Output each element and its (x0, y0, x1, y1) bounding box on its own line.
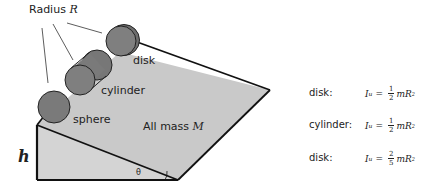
formula-rhs: mR (396, 154, 411, 164)
formula-sub: u (369, 90, 373, 97)
formula-exp: 2 (412, 123, 415, 129)
formula-label: disk: (309, 87, 333, 98)
radius-text: Radius (29, 3, 69, 16)
frac-den: 2 (389, 94, 393, 102)
mass-symbol: M (193, 120, 204, 133)
formula-exp: 2 (412, 156, 415, 162)
mass-text: All mass (143, 120, 193, 133)
formula-rhs: mR (396, 89, 411, 99)
radius-label: Radius R (29, 3, 78, 16)
formula-sub: u (369, 122, 373, 129)
formula-eq: = (375, 89, 383, 99)
formula-fraction: 12 (388, 85, 394, 102)
frac-num: 1 (388, 85, 394, 94)
cylinder-label: cylinder (101, 84, 145, 97)
disk-shape (106, 25, 140, 57)
mass-label: All mass M (143, 120, 204, 133)
sphere-shape (38, 91, 70, 123)
angle-label: θ (136, 168, 141, 177)
formula-eq: = (375, 154, 383, 164)
radius-symbol: R (69, 3, 77, 16)
formula-label: cylinder: (309, 119, 352, 130)
frac-num: 1 (388, 117, 394, 126)
formula-eq: = (375, 121, 383, 131)
sphere-label: sphere (73, 113, 111, 126)
frac-den: 2 (389, 126, 393, 134)
formula-expression: Iu = 12 mR2 (365, 85, 415, 102)
formula-expression: Iu = 25 mR2 (365, 150, 415, 167)
formula-fraction: 25 (388, 150, 394, 167)
formula-exp: 2 (412, 91, 415, 97)
formula-label: disk: (309, 152, 333, 163)
disk-label: disk (133, 54, 155, 67)
height-label: h (18, 147, 30, 166)
frac-den: 5 (389, 159, 393, 167)
formula-fraction: 12 (388, 117, 394, 134)
formula-sub: u (369, 155, 373, 162)
frac-num: 2 (388, 150, 394, 159)
formula-expression: Iu = 12 mR2 (365, 117, 415, 134)
formula-rhs: mR (396, 121, 411, 131)
